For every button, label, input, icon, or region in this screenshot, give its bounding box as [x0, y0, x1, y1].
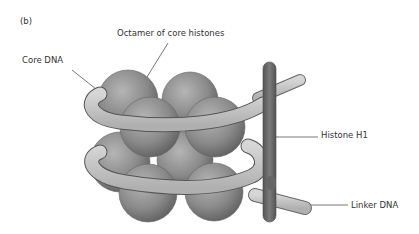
histone-h1: [263, 62, 276, 222]
linker-dna: [255, 195, 305, 208]
histone-octamer: [90, 70, 245, 222]
nucleosome-diagram: [0, 0, 419, 234]
